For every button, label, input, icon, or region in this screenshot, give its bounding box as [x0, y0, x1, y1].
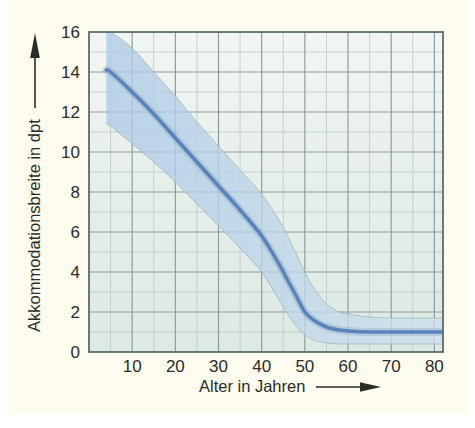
- y-tick-label: 14: [61, 63, 80, 82]
- x-tick-label: 80: [425, 357, 444, 376]
- y-tick-label: 0: [71, 343, 80, 362]
- y-tick-label: 16: [61, 23, 80, 42]
- x-tick-label: 50: [295, 357, 314, 376]
- x-tick-label: 60: [339, 357, 358, 376]
- y-tick-label: 8: [71, 183, 80, 202]
- x-tick-label: 10: [123, 357, 142, 376]
- accommodation-chart: 10203040506070800246810121416Akkommodati…: [0, 0, 475, 428]
- figure-page: 10203040506070800246810121416Akkommodati…: [0, 0, 475, 428]
- y-tick-label: 12: [61, 103, 80, 122]
- x-arrow-head-icon: [360, 382, 381, 392]
- y-tick-label: 6: [71, 223, 80, 242]
- x-tick-label: 20: [166, 357, 185, 376]
- chart-svg: 10203040506070800246810121416Akkommodati…: [0, 0, 475, 428]
- y-tick-label: 10: [61, 143, 80, 162]
- y-tick-label: 2: [71, 303, 80, 322]
- x-tick-label: 40: [252, 357, 271, 376]
- x-tick-label: 30: [209, 357, 228, 376]
- y-arrow-head-icon: [30, 33, 40, 58]
- x-tick-label: 70: [382, 357, 401, 376]
- x-axis-arrow: [316, 382, 381, 392]
- y-axis-title: Akkommodationsbreite in dpt: [25, 119, 43, 332]
- y-tick-label: 4: [71, 263, 80, 282]
- y-axis-arrow: [30, 33, 40, 108]
- x-axis-title: Alter in Jahren: [199, 377, 305, 395]
